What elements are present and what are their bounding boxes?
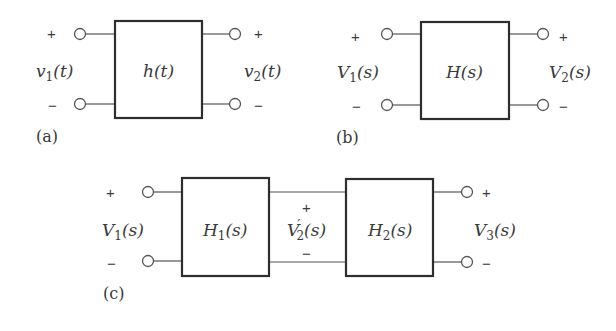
figure-label-b: (b) (336, 128, 359, 147)
block-label: h(t) (143, 61, 174, 81)
input-voltage-label: V1(s) (337, 62, 379, 85)
diagram-b: + − + − V1(s) H(s) V2(s) (b) (336, 22, 591, 147)
output-plus-sign: + (482, 184, 491, 201)
output-terminal-plus (230, 29, 241, 40)
input-terminal-plus (382, 29, 393, 40)
output-voltage-label: V2(s) (549, 62, 591, 85)
input-terminal-minus (75, 99, 86, 110)
output-terminal-plus (538, 29, 549, 40)
input-plus-sign: + (47, 25, 56, 42)
block-label: H(s) (445, 62, 483, 82)
input-voltage-label: v1(t) (36, 61, 73, 84)
block2-label: H2(s) (367, 220, 412, 243)
block-diagrams: + − + − v1(t) h(t) v2(t) (a) + − + − V1(… (0, 0, 616, 331)
diagram-a: + − + − v1(t) h(t) v2(t) (a) (36, 21, 281, 146)
input-terminal-minus (143, 256, 154, 267)
input-terminal-minus (382, 100, 393, 111)
figure-label-a: (a) (36, 127, 58, 146)
output-terminal-minus (538, 100, 549, 111)
diagram-c: + − + − + − V1(s) H1(s) V′2(s) H2(s) V3(… (102, 178, 516, 303)
output-minus-sign: − (254, 97, 263, 114)
middle-plus-sign: + (302, 199, 311, 216)
figure-label-c: (c) (103, 284, 124, 303)
input-terminal-plus (143, 187, 154, 198)
input-voltage-label: V1(s) (102, 220, 144, 243)
middle-voltage-label: V′2(s) (287, 217, 326, 243)
input-plus-sign: + (106, 184, 115, 201)
output-minus-sign: − (482, 255, 491, 272)
input-plus-sign: + (351, 28, 360, 45)
input-minus-sign: − (48, 97, 57, 114)
output-minus-sign: − (559, 98, 568, 115)
output-plus-sign: + (254, 25, 263, 42)
input-minus-sign: − (107, 255, 116, 272)
output-plus-sign: + (559, 28, 568, 45)
input-terminal-plus (75, 29, 86, 40)
input-minus-sign: − (352, 98, 361, 115)
output-terminal-minus (230, 99, 241, 110)
output-voltage-label: v2(t) (244, 61, 281, 84)
middle-minus-sign: − (302, 245, 311, 262)
output-terminal-minus (462, 257, 473, 268)
block1-label: H1(s) (202, 220, 247, 243)
output-voltage-label: V3(s) (474, 220, 516, 243)
output-terminal-plus (462, 187, 473, 198)
